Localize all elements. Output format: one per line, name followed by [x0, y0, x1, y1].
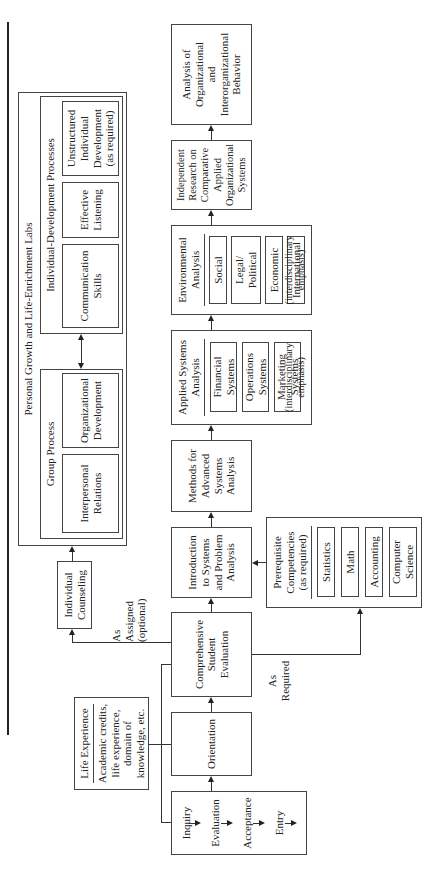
arrow-right-icon: [208, 425, 214, 431]
connector: [72, 552, 73, 561]
comprehensive-student-evaluation-box: Comprehensive Student Evaluation: [171, 612, 252, 697]
connector: [211, 703, 212, 712]
as-required-label: As Required: [266, 658, 291, 704]
economic-box: Economic: [265, 236, 283, 304]
step-entry: Entry: [273, 791, 285, 855]
entry-steps: . Evaluation Acceptance Entry: [171, 791, 307, 855]
life-experience-box: Life Experience Academic credits, life e…: [74, 697, 149, 790]
connector: [211, 518, 212, 527]
connector: [211, 321, 212, 330]
arrow-right-icon: [357, 608, 363, 614]
orientation-box: Orientation: [171, 712, 252, 776]
intro-systems-box: Introduction to Systems and Problem Anal…: [171, 527, 252, 598]
personal-growth-labs-box: Personal Growth and Life-Enrichment Labs…: [18, 92, 127, 546]
prerequisite-title: Prerequisite Competencies (as required): [271, 518, 309, 607]
environmental-note-label: (interdisciplinary emphasis): [283, 225, 306, 315]
diagram-canvas: Inquiry . Evaluation Acceptance Entry Or…: [0, 0, 442, 886]
connector: [189, 823, 195, 824]
connector: [360, 614, 361, 655]
computer-science-box: Computer Science: [389, 527, 417, 597]
arrow-down-icon: [195, 820, 201, 826]
group-process-box: Group Process Interpersonal Relations Or…: [40, 369, 123, 539]
divider: [204, 339, 205, 416]
organizational-development-box: Organizational Development: [62, 373, 119, 448]
effective-listening-box: Effective Listening: [62, 182, 119, 238]
applied-note-label: (interdisciplinary emphasis): [283, 330, 306, 425]
connector: [252, 654, 360, 655]
arrow-down-icon: [259, 820, 265, 826]
arrow-right-icon: [208, 512, 214, 518]
connector: [211, 431, 212, 440]
individual-counseling-box: Individual Counseling: [57, 561, 92, 629]
arrow-down-icon: [291, 820, 297, 826]
environmental-title: Environmental Analysis: [176, 226, 201, 314]
methods-box: Methods for Advanced Systems Analysis: [171, 440, 252, 512]
connector: [211, 131, 212, 140]
unstructured-development-box: Unstructured Individual Development (as …: [62, 101, 119, 176]
step-acceptance: Acceptance: [241, 791, 253, 855]
communication-skills-box: Communication Skills: [62, 244, 119, 328]
organizational-behavior-box: Analysis of Organizational and Interorga…: [171, 24, 252, 125]
math-box: Math: [341, 527, 359, 597]
connector: [211, 604, 212, 612]
arrow-down-icon: [227, 820, 233, 826]
independent-research-box: Independent Research on Comparative Appl…: [171, 140, 252, 210]
arrow-right-icon: [208, 776, 214, 782]
connector: [149, 744, 161, 745]
social-box: Social: [209, 236, 227, 304]
arrow-right-icon: [78, 334, 84, 340]
arrow-right-icon: [208, 125, 214, 131]
life-experience-body: Academic credits, life experience, domai…: [96, 698, 147, 789]
prerequisite-competencies-box: Prerequisite Competencies (as required) …: [266, 517, 422, 608]
connector: [221, 823, 227, 824]
as-assigned-label: As Assigned (optional): [110, 582, 148, 642]
connector: [72, 635, 73, 643]
interpersonal-relations-box: Interpersonal Relations: [62, 454, 119, 533]
connector: [72, 642, 171, 643]
step-evaluation: Evaluation: [209, 791, 221, 855]
connector: [285, 823, 291, 824]
individual-development-title: Individual-Development Processes: [44, 97, 57, 333]
arrow-up-icon: [252, 560, 258, 566]
applied-systems-title: Applied Systems Analysis: [176, 331, 201, 424]
connector: [211, 216, 212, 225]
financial-systems-box: Financial Systems: [210, 342, 237, 412]
connector: [258, 562, 266, 563]
arrow-right-icon: [208, 697, 214, 703]
arrow-right-icon: [208, 210, 214, 216]
individual-development-box: Individual-Development Processes Communi…: [40, 96, 123, 334]
connector: [161, 664, 171, 665]
divider: [311, 526, 312, 599]
operations-systems-box: Operations Systems: [242, 342, 269, 412]
labs-title: Personal Growth and Life-Enrichment Labs: [22, 93, 35, 545]
connector: [253, 823, 259, 824]
arrow-left-icon: [78, 363, 84, 369]
divider: [93, 704, 94, 783]
arrow-right-icon: [208, 598, 214, 604]
life-experience-title: Life Experience: [78, 698, 91, 789]
connector: [161, 822, 171, 823]
statistics-box: Statistics: [317, 527, 335, 597]
connector: [211, 782, 212, 791]
legal-political-box: Legal/ Political: [231, 236, 261, 304]
accounting-box: Accounting: [365, 527, 383, 597]
page-rule: [7, 22, 9, 735]
arrow-right-icon: [69, 629, 75, 635]
arrow-right-icon: [69, 546, 75, 552]
group-process-title: Group Process: [44, 370, 57, 538]
connector: [161, 744, 171, 745]
divider: [204, 234, 205, 306]
arrow-right-icon: [208, 315, 214, 321]
